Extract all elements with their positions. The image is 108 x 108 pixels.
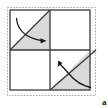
figure-label: a — [102, 98, 108, 107]
geometric-fold-diagram — [0, 0, 108, 108]
figure-container: a — [0, 0, 108, 108]
